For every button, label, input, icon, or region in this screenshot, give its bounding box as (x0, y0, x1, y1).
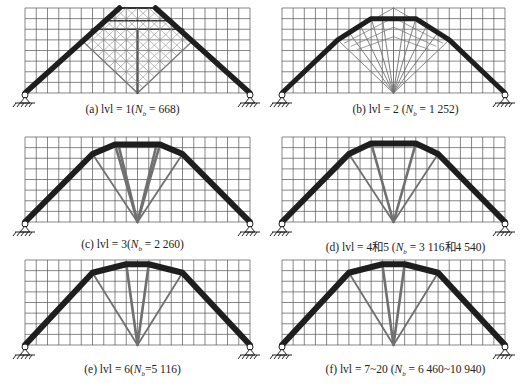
panel-a: (a) lvl = 1(Nb = 668) (0, 0, 265, 125)
background-grid (282, 260, 505, 345)
pin-support-left-icon (13, 344, 35, 359)
caption-e: (e) lvl = 6(Nb=5 116) (0, 363, 265, 378)
panel-c: (c) lvl = 3(Nb = 2 260) (0, 129, 265, 254)
truss-diagram-d (265, 129, 530, 254)
panel-b: (b) lvl = 2 (Nb = 1 252) (265, 0, 530, 125)
panel-e: (e) lvl = 6(Nb=5 116) (0, 252, 265, 386)
pin-support-right-icon (238, 221, 260, 236)
pin-support-left-icon (13, 221, 35, 236)
background-grid (25, 260, 250, 345)
background-grid (25, 137, 250, 222)
truss-diagram-c (0, 129, 265, 254)
background-grid (282, 137, 505, 222)
caption-f: (f) lvl = 7~20 (Nb = 6 460~10 940) (273, 363, 530, 378)
panel-d: (d) lvl = 4和5 (Nb = 3 116和4 540) (265, 129, 530, 254)
pin-support-right-icon (493, 221, 515, 236)
pin-support-left-icon (270, 221, 292, 236)
panel-f: (f) lvl = 7~20 (Nb = 6 460~10 940) (265, 252, 530, 386)
caption-c: (c) lvl = 3(Nb = 2 260) (0, 238, 265, 253)
caption-b: (b) lvl = 2 (Nb = 1 252) (273, 103, 530, 118)
pin-support-left-icon (270, 344, 292, 359)
pin-support-right-icon (493, 344, 515, 359)
pin-support-right-icon (238, 344, 260, 359)
caption-a: (a) lvl = 1(Nb = 668) (0, 103, 265, 118)
